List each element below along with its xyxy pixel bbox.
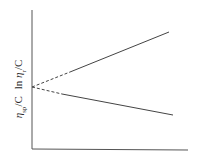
- y-axis-label: ηsp/C ln ηr/C: [12, 60, 27, 119]
- viscosity-plot: [0, 0, 208, 167]
- lower-line-solid: [62, 94, 173, 115]
- lower-line-dashed: [32, 87, 62, 94]
- x-axis: [32, 149, 188, 150]
- ylabel-ln-eta-r: ln ηr/C: [12, 60, 27, 90]
- ylabel-eta-sp: ηsp/C: [12, 96, 27, 118]
- upper-line-solid: [70, 32, 169, 72]
- upper-line-dashed: [32, 72, 70, 87]
